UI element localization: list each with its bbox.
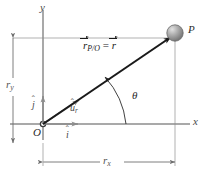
dimension-label-ry: ry <box>6 79 14 92</box>
x-axis-label: x <box>193 116 198 127</box>
coordinate-axes <box>10 10 190 140</box>
point-p-sphere <box>167 25 183 41</box>
position-vector-subscript: P/O <box>87 44 100 53</box>
diagram-canvas <box>0 0 207 178</box>
vector-diagram-figure: y x O P θ rP/O = r ˆj ˆi ˆur ry rx <box>0 0 207 178</box>
theta-arc <box>105 77 126 124</box>
u-r-hat-accent: ˆ <box>71 98 74 107</box>
i-hat-accent: ˆ <box>66 125 69 134</box>
origin-label: O <box>33 127 41 138</box>
j-hat-accent: ˆ <box>32 95 35 104</box>
position-vector-r-symbol: r <box>83 39 87 51</box>
y-axis-label: y <box>40 2 45 13</box>
theta-label: θ <box>132 90 137 101</box>
u-r-hat-subscript: r <box>75 107 78 115</box>
j-hat-label: ˆj <box>32 100 35 110</box>
u-r-hat-label: ˆur <box>70 103 78 115</box>
dimension-label-rx: rx <box>103 155 111 168</box>
point-p-label: P <box>188 24 195 35</box>
position-vector-label: rP/O = r <box>83 40 116 53</box>
ry-subscript: y <box>10 83 14 92</box>
i-hat-label: ˆi <box>66 130 69 140</box>
position-vector-r2-symbol: r <box>112 39 116 51</box>
rx-subscript: x <box>107 159 111 168</box>
